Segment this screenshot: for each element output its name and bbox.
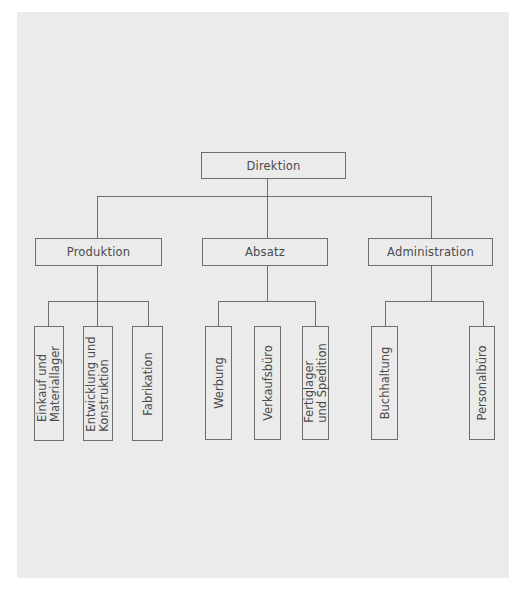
node-label-line: Fabrikation: [141, 352, 154, 415]
node-direktion: Direktion: [201, 152, 346, 179]
connector-line: [48, 301, 49, 326]
connector-line: [385, 301, 386, 326]
connector-line: [483, 301, 484, 326]
connector-line: [267, 196, 268, 238]
connector-line: [218, 301, 219, 326]
connector-line: [97, 196, 432, 197]
node-fertiglager-spedition: Fertiglager und Spedition: [302, 326, 329, 440]
node-produktion: Produktion: [35, 238, 162, 266]
node-label: Absatz: [245, 245, 285, 259]
node-label: Produktion: [67, 245, 131, 259]
node-label-line: und Spedition: [316, 343, 329, 423]
node-fabrikation: Fabrikation: [132, 326, 163, 441]
connector-line: [218, 301, 316, 302]
node-label-line: Fertiglager: [303, 343, 316, 423]
connector-line: [267, 179, 268, 197]
node-entwicklung-konstruktion: Entwicklung und Konstruktion: [83, 326, 113, 441]
node-verkaufsbuero: Verkaufsbüro: [254, 326, 281, 440]
node-label-line: Buchhaltung: [378, 347, 391, 420]
connector-line: [97, 196, 98, 238]
connector-line: [148, 301, 149, 326]
connector-line: [315, 301, 316, 326]
node-absatz: Absatz: [202, 238, 328, 266]
connector-line: [431, 266, 432, 302]
node-buchhaltung: Buchhaltung: [371, 326, 398, 440]
node-label: Direktion: [246, 159, 300, 173]
connector-line: [97, 266, 98, 302]
node-label-line: Verkaufsbüro: [261, 345, 274, 421]
connector-line: [267, 266, 268, 302]
node-label-line: Personalbüro: [476, 346, 489, 421]
connector-line: [431, 196, 432, 238]
connector-line: [385, 301, 484, 302]
node-personalbuero: Personalbüro: [469, 326, 495, 440]
node-label-line: Materiallager: [49, 345, 62, 421]
connector-line: [97, 301, 98, 326]
node-werbung: Werbung: [205, 326, 232, 440]
node-administration: Administration: [368, 238, 493, 266]
connector-line: [48, 301, 149, 302]
node-label-line: Werbung: [212, 357, 225, 409]
node-label: Administration: [387, 245, 474, 259]
diagram-panel: [17, 12, 509, 578]
node-label-line: Konstruktion: [98, 336, 111, 431]
node-einkauf-materiallager: Einkauf und Materiallager: [34, 326, 64, 441]
